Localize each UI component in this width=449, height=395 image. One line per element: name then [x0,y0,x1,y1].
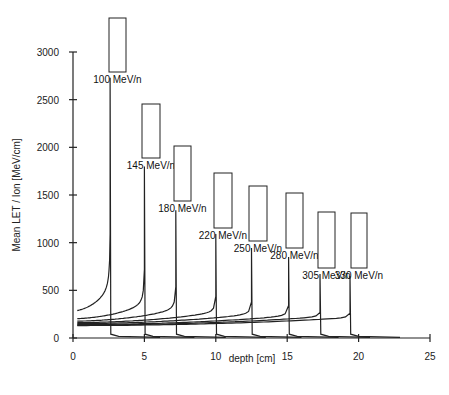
x-tick-label: 20 [353,351,365,362]
curves [77,78,400,338]
label-box [214,173,232,228]
bragg-curve [77,274,370,337]
label-box [142,104,160,158]
label-box [249,186,267,241]
series-label: 145 MeV/n [127,160,175,171]
x-tick-label: 10 [210,351,222,362]
bragg-curve [77,276,400,337]
y-tick-label: 500 [42,285,59,296]
y-tick-label: 1000 [37,238,60,249]
label-box [286,193,303,248]
series-label: 330 MeV/n [335,270,383,281]
label-box [351,213,367,268]
bragg-curve-chart: 0500100015002000250030000510152025 100 M… [0,0,449,395]
label-box [318,212,335,268]
x-tick-label: 25 [424,351,436,362]
y-tick-label: 1500 [37,190,60,201]
x-axis-title: depth [cm] [229,353,276,364]
axes: 0500100015002000250030000510152025 [37,47,436,362]
y-tick-label: 0 [53,333,59,344]
series-label: 220 MeV/n [199,230,247,241]
chart: 0500100015002000250030000510152025 100 M… [0,0,449,395]
y-axis-title: Mean LET / Ion [MeV/cm] [11,138,22,251]
y-tick-label: 2500 [37,95,60,106]
series-labels: 100 MeV/n145 MeV/n180 MeV/n220 MeV/n250 … [93,18,383,281]
series-label: 280 MeV/n [270,250,318,261]
series-label: 100 MeV/n [93,74,141,85]
y-tick-label: 3000 [37,47,60,58]
y-tick-label: 2000 [37,142,60,153]
x-tick-label: 15 [282,351,294,362]
series-label: 180 MeV/n [158,203,206,214]
x-tick-label: 5 [142,351,148,362]
x-tick-label: 0 [70,351,76,362]
label-box [174,146,191,201]
label-box [109,18,126,72]
